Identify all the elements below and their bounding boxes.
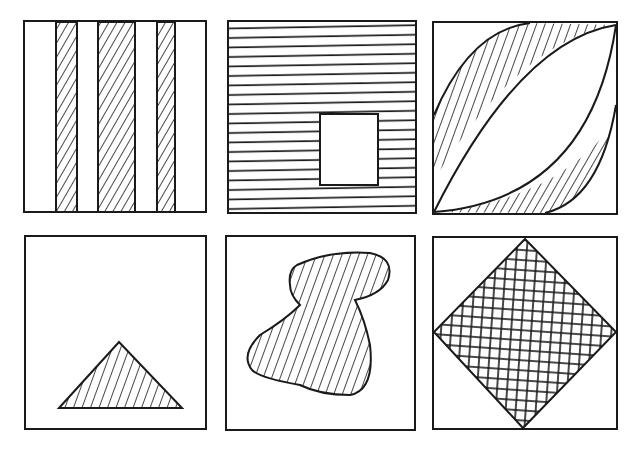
hatched-blob [248,253,390,396]
panel-blob [226,236,415,430]
hatched-triangle [59,342,182,408]
hatching-figure [0,0,640,449]
cross-hatched-diamond [434,239,616,428]
panel-lens-crescents [433,22,617,214]
panel-horizontal-lines [228,21,416,213]
stripe-2 [98,22,135,212]
stripe-3 [157,22,175,212]
panel-vertical-stripes [24,21,206,212]
stripe-1 [56,22,77,212]
panel-diamond [433,237,617,429]
panel-triangle [25,236,206,429]
white-window [320,114,378,185]
